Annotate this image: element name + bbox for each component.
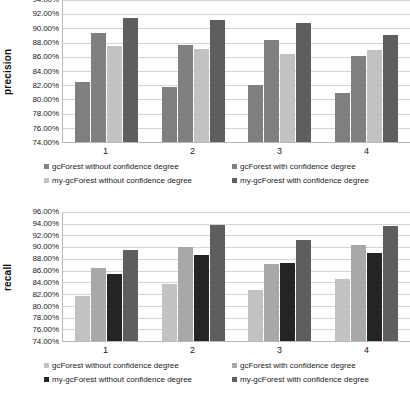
bar (194, 49, 209, 142)
bar (210, 20, 225, 142)
bar (123, 18, 138, 142)
legend-swatch-icon (232, 164, 237, 169)
recall-chart-xtick: 2 (149, 342, 236, 355)
bar (162, 87, 177, 142)
precision-chart-group-3 (237, 0, 324, 142)
bar (264, 40, 279, 142)
recall-chart-group-2 (150, 212, 237, 341)
bar (280, 263, 295, 341)
legend-label: gcForest without confidence degree (52, 162, 179, 171)
legend-item[interactable]: my-gcForest with confidence degree (232, 176, 410, 185)
recall-legend: gcForest without confidence degreegcFore… (0, 361, 410, 384)
bar (91, 33, 106, 142)
precision-chart-xtick: 3 (236, 143, 323, 156)
legend-swatch-icon (232, 178, 237, 183)
recall-chart-ytick: 90.00% (32, 243, 59, 251)
precision-legend: gcForest without confidence degreegcFore… (0, 162, 410, 185)
precision-chart-ytick: 94.00% (32, 0, 59, 4)
recall-y-tick-labels: 74.00%76.00%78.00%80.00%82.00%84.00%86.0… (14, 212, 62, 342)
legend-label: my-gcForest with confidence degree (240, 375, 369, 384)
precision-chart-group-4 (323, 0, 410, 142)
legend-label: my-gcForest without confidence degree (52, 176, 192, 185)
recall-x-tick-labels: 1234 (62, 342, 410, 355)
precision-chart-ytick: 92.00% (32, 10, 59, 18)
bar (178, 45, 193, 142)
recall-plot-area (62, 212, 410, 342)
legend-label: my-gcForest without confidence degree (52, 375, 192, 384)
precision-chart-group-1 (63, 0, 150, 142)
bar (248, 290, 263, 341)
recall-chart-ytick: 82.00% (32, 291, 59, 299)
bar (335, 279, 350, 341)
legend-label: gcForest with confidence degree (240, 162, 356, 171)
bar (367, 253, 382, 341)
legend-label: gcForest with confidence degree (240, 361, 356, 370)
recall-chart: recall 74.00%76.00%78.00%80.00%82.00%84.… (0, 212, 410, 412)
precision-chart-xtick: 2 (149, 143, 236, 156)
legend-item[interactable]: gcForest with confidence degree (232, 361, 410, 370)
recall-chart-ytick: 94.00% (32, 220, 59, 228)
legend-swatch-icon (44, 178, 49, 183)
recall-chart-group-4 (323, 212, 410, 341)
recall-chart-ytick: 84.00% (32, 279, 59, 287)
legend-label: gcForest without confidence degree (52, 361, 179, 370)
bar (210, 225, 225, 341)
bar (280, 54, 295, 142)
precision-chart-xtick: 1 (62, 143, 149, 156)
bar (107, 274, 122, 341)
recall-chart-xtick: 4 (323, 342, 410, 355)
recall-chart-ytick: 88.00% (32, 255, 59, 263)
precision-y-axis-title: precision (0, 0, 14, 143)
bar (75, 82, 90, 142)
legend-swatch-icon (232, 377, 237, 382)
precision-chart-group-2 (150, 0, 237, 142)
bar (296, 240, 311, 341)
recall-chart-xtick: 1 (62, 342, 149, 355)
recall-chart-ytick: 78.00% (32, 314, 59, 322)
bar (162, 284, 177, 341)
recall-chart-ytick: 80.00% (32, 303, 59, 311)
legend-label: my-gcForest with confidence degree (240, 176, 369, 185)
bar (194, 255, 209, 341)
bar (367, 50, 382, 142)
legend-item[interactable]: gcForest with confidence degree (232, 162, 410, 171)
bar (107, 46, 122, 142)
recall-chart-xtick: 3 (236, 342, 323, 355)
recall-chart-ytick: 86.00% (32, 267, 59, 275)
recall-chart-group-3 (237, 212, 324, 341)
legend-item[interactable]: gcForest without confidence degree (44, 162, 232, 171)
precision-chart-ytick: 78.00% (32, 110, 59, 118)
legend-item[interactable]: my-gcForest with confidence degree (232, 375, 410, 384)
legend-swatch-icon (44, 377, 49, 382)
recall-chart-ytick: 76.00% (32, 326, 59, 334)
bar (335, 93, 350, 142)
legend-item[interactable]: my-gcForest without confidence degree (44, 375, 232, 384)
precision-plot-area (62, 0, 410, 143)
legend-swatch-icon (232, 363, 237, 368)
legend-swatch-icon (44, 164, 49, 169)
precision-chart-ytick: 90.00% (32, 25, 59, 33)
precision-chart-ytick: 86.00% (32, 53, 59, 61)
recall-chart-ytick: 92.00% (32, 232, 59, 240)
precision-chart-ytick: 84.00% (32, 68, 59, 76)
bar (383, 35, 398, 142)
recall-chart-ytick: 96.00% (32, 208, 59, 216)
precision-y-tick-labels: 74.00%76.00%78.00%80.00%82.00%84.00%86.0… (14, 0, 62, 143)
legend-item[interactable]: my-gcForest without confidence degree (44, 176, 232, 185)
legend-swatch-icon (44, 363, 49, 368)
precision-chart-ytick: 82.00% (32, 82, 59, 90)
bar (264, 264, 279, 341)
bar (296, 23, 311, 142)
precision-chart-ytick: 74.00% (32, 139, 59, 147)
bar (351, 56, 366, 142)
bar (91, 268, 106, 341)
bar (178, 247, 193, 341)
precision-chart-ytick: 88.00% (32, 39, 59, 47)
legend-item[interactable]: gcForest without confidence degree (44, 361, 232, 370)
bar (351, 245, 366, 341)
precision-chart-xtick: 4 (323, 143, 410, 156)
bar (75, 296, 90, 341)
precision-chart-ytick: 76.00% (32, 125, 59, 133)
recall-chart-group-1 (63, 212, 150, 341)
precision-chart: precision 74.00%76.00%78.00%80.00%82.00%… (0, 0, 410, 200)
